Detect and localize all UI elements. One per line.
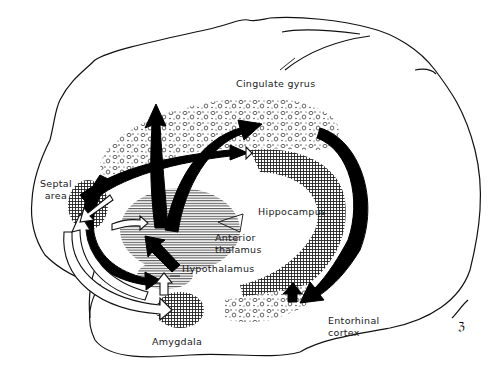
label-anterior-thalamus: Anterior thalamus <box>215 232 262 256</box>
label-text: Cingulate gyrus <box>236 78 315 90</box>
label-text: Amygdala <box>152 336 202 348</box>
label-text: Hypothalamus <box>182 263 254 275</box>
label-line-2: cortex <box>328 327 379 339</box>
label-amygdala: Amygdala <box>152 336 202 348</box>
label-cingulate-gyrus: Cingulate gyrus <box>236 78 315 90</box>
label-hypothalamus: Hypothalamus <box>182 263 254 275</box>
label-septal-area: Septal area <box>40 178 72 202</box>
label-line-1: Septal <box>40 178 72 190</box>
label-line-1: Anterior <box>215 232 262 244</box>
label-line-2: thalamus <box>215 244 262 256</box>
label-line-2: area <box>40 190 72 202</box>
artist-signature: ℨ <box>458 320 465 333</box>
label-entorhinal-cortex: Entorhinal cortex <box>328 315 379 339</box>
arrow-head-hippocampus <box>246 147 252 159</box>
label-hippocampus: Hippocampus <box>258 206 326 218</box>
label-line-1: Entorhinal <box>328 315 379 327</box>
limbic-system-diagram: ℨ <box>0 0 497 386</box>
label-text: Hippocampus <box>258 206 326 218</box>
